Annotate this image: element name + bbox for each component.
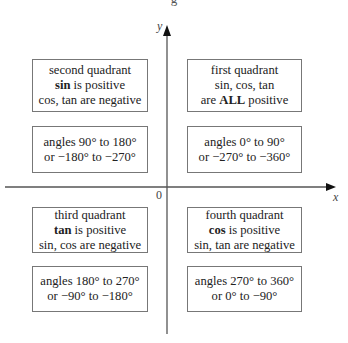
origin-label: 0	[156, 188, 162, 203]
fourth-quadrant-angles-box: angles 270° to 360° or 0° to −90°	[187, 266, 302, 312]
fourth-quadrant-box: fourth quadrant cos is positive sin, tan…	[187, 207, 302, 253]
first-quadrant-angles-1: angles 0° to 90°	[188, 135, 301, 150]
first-quadrant-box: first quadrant sin, cos, tan are ALL pos…	[187, 59, 302, 112]
second-quadrant-positive: sin is positive	[33, 78, 147, 93]
second-quadrant-negative: cos, tan are negative	[33, 93, 147, 108]
first-quadrant-positive: are ALL positive	[188, 93, 301, 108]
fourth-quadrant-angles-2: or 0° to −90°	[188, 289, 301, 304]
second-quadrant-box: second quadrant sin is positive cos, tan…	[32, 59, 148, 112]
fourth-quadrant-title: fourth quadrant	[188, 208, 301, 223]
first-quadrant-functions: sin, cos, tan	[188, 78, 301, 93]
y-axis-arrow-icon	[163, 25, 171, 36]
third-quadrant-title: third quadrant	[33, 208, 147, 223]
fourth-quadrant-negative: sin, tan are negative	[188, 238, 301, 253]
third-quadrant-angles-box: angles 180° to 270° or −90° to −180°	[32, 266, 148, 312]
third-quadrant-positive: tan is positive	[33, 223, 147, 238]
third-quadrant-angles-2: or −90° to −180°	[33, 289, 147, 304]
third-quadrant-box: third quadrant tan is positive sin, cos …	[32, 207, 148, 253]
third-quadrant-negative: sin, cos are negative	[33, 238, 147, 253]
fourth-quadrant-angles-1: angles 270° to 360°	[188, 274, 301, 289]
second-quadrant-angles-2: or −180° to −270°	[33, 150, 147, 165]
first-quadrant-angles-2: or −270° to −360°	[188, 150, 301, 165]
first-quadrant-angles-box: angles 0° to 90° or −270° to −360°	[187, 126, 302, 173]
y-axis-label: y	[157, 19, 162, 34]
third-quadrant-angles-1: angles 180° to 270°	[33, 274, 147, 289]
fourth-quadrant-positive: cos is positive	[188, 223, 301, 238]
second-quadrant-angles-box: angles 90° to 180° or −180° to −270°	[32, 126, 148, 173]
first-quadrant-title: first quadrant	[188, 63, 301, 78]
second-quadrant-title: second quadrant	[33, 63, 147, 78]
second-quadrant-angles-1: angles 90° to 180°	[33, 135, 147, 150]
x-axis-label: x	[333, 190, 338, 205]
